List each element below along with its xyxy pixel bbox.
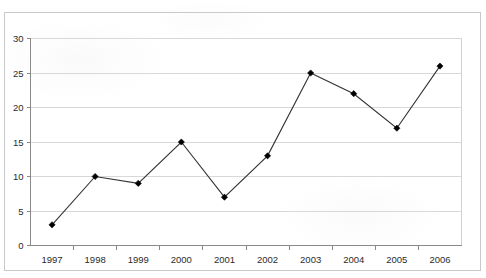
x-tick-label-1998: 1998 <box>85 254 106 265</box>
y-axis-tick-labels: 051015202530 <box>13 33 31 251</box>
x-tick-label-1999: 1999 <box>128 254 149 265</box>
x-tick-label-2005: 2005 <box>386 254 407 265</box>
x-tick-label-2000: 2000 <box>171 254 192 265</box>
x-tick-label-2003: 2003 <box>300 254 321 265</box>
chart-plot-area: 051015202530 199719981999200020012002200… <box>0 0 486 278</box>
data-series-line <box>52 66 440 225</box>
y-tick-label-15: 15 <box>13 137 24 148</box>
x-tick-label-1997: 1997 <box>41 254 62 265</box>
x-axis-tickmarks <box>74 246 419 250</box>
y-tick-label-25: 25 <box>13 68 24 79</box>
x-axis-tick-labels: 1997199819992000200120022003200420052006 <box>41 254 450 265</box>
series-polyline <box>52 66 440 225</box>
y-tick-label-30: 30 <box>13 33 24 44</box>
y-tick-label-0: 0 <box>18 240 23 251</box>
data-point-2003-25 <box>308 70 314 76</box>
x-tick-label-2004: 2004 <box>343 254 364 265</box>
data-point-markers <box>49 63 443 228</box>
x-tick-label-2002: 2002 <box>257 254 278 265</box>
y-tick-label-10: 10 <box>13 171 24 182</box>
x-tick-label-2001: 2001 <box>214 254 235 265</box>
y-tick-label-5: 5 <box>18 206 23 217</box>
x-tick-label-2006: 2006 <box>429 254 450 265</box>
y-tick-label-20: 20 <box>13 102 24 113</box>
line-chart-figure: 051015202530 199719981999200020012002200… <box>0 0 486 278</box>
